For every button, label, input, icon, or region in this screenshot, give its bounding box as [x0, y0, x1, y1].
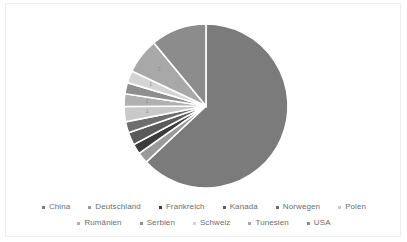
legend-swatch-icon — [248, 222, 251, 225]
legend-swatch-icon — [193, 222, 196, 225]
legend-item-label: Polen — [345, 199, 366, 215]
chart-legend: ChinaDeutschlandFrankreichKanadaNorwegen… — [6, 194, 402, 236]
legend-item-kanada[interactable]: Kanada — [223, 199, 258, 215]
legend-swatch-icon — [276, 206, 279, 209]
legend-item-schweiz[interactable]: Schweiz — [193, 215, 231, 231]
legend-item-frankreich[interactable]: Frankreich — [159, 199, 205, 215]
chart-card: 11122 ChinaDeutschlandFrankreichKanadaNo… — [5, 3, 401, 237]
legend-item-rum-nien[interactable]: Rumänien — [77, 215, 121, 231]
legend-swatch-icon — [338, 206, 341, 209]
legend-swatch-icon — [159, 206, 162, 209]
legend-item-china[interactable]: China — [42, 199, 70, 215]
legend-item-label: Rumänien — [84, 215, 121, 231]
legend-item-label: Kanada — [230, 199, 258, 215]
legend-item-polen[interactable]: Polen — [338, 199, 366, 215]
legend-item-norwegen[interactable]: Norwegen — [276, 199, 320, 215]
pie-chart-plot-area: 11122 — [6, 4, 402, 194]
legend-swatch-icon — [307, 222, 310, 225]
legend-item-label: Deutschland — [95, 199, 141, 215]
legend-row: ChinaDeutschlandFrankreichKanadaNorwegen… — [42, 199, 366, 215]
pie-chart-svg[interactable]: 11122 — [6, 4, 402, 194]
legend-swatch-icon — [88, 206, 91, 209]
legend-item-label: Frankreich — [166, 199, 205, 215]
legend-swatch-icon — [140, 222, 143, 225]
legend-item-label: Norwegen — [283, 199, 320, 215]
legend-swatch-icon — [77, 222, 80, 225]
legend-item-label: Schweiz — [200, 215, 231, 231]
legend-item-usa[interactable]: USA — [307, 215, 331, 231]
legend-row: RumänienSerbienSchweizTunesienUSA — [77, 215, 330, 231]
legend-swatch-icon — [223, 206, 226, 209]
pie-slice-group — [124, 24, 288, 188]
legend-item-label: China — [49, 199, 70, 215]
legend-item-label: Serbien — [147, 215, 175, 231]
legend-item-tunesien[interactable]: Tunesien — [248, 215, 288, 231]
legend-item-deutschland[interactable]: Deutschland — [88, 199, 141, 215]
legend-item-label: USA — [314, 215, 331, 231]
legend-item-label: Tunesien — [255, 215, 288, 231]
legend-swatch-icon — [42, 206, 45, 209]
legend-item-serbien[interactable]: Serbien — [140, 215, 175, 231]
